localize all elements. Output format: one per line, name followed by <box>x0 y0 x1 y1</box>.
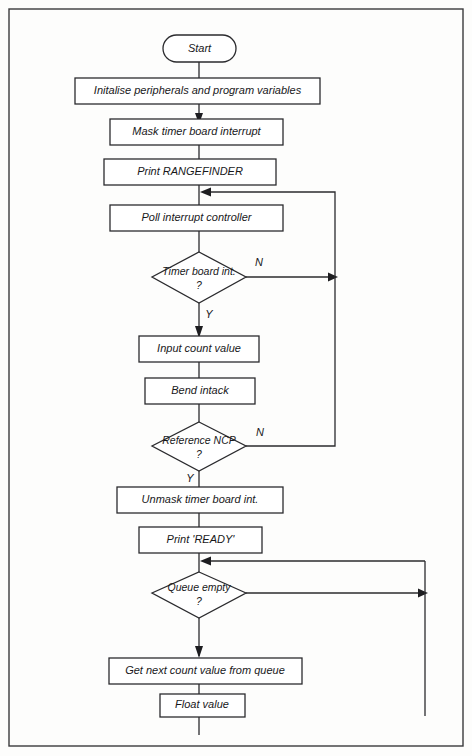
node-print-ready[interactable]: Print 'READY' <box>139 527 262 553</box>
get-next-label: Get next count value from queue <box>125 664 285 676</box>
timer-decision-shape <box>152 252 246 303</box>
float-value-label: Float value <box>175 698 229 710</box>
arrow-loop-into-poll <box>200 188 211 197</box>
flowchart-figure: Start Initalise peripherals and program … <box>0 0 472 756</box>
bend-intack-label: Bend intack <box>171 384 229 396</box>
input-count-label: Input count value <box>157 342 241 354</box>
unmask-label: Unmask timer board int. <box>142 493 259 505</box>
arrow-queue-exit <box>418 589 428 598</box>
node-float-value[interactable]: Float value <box>160 694 245 717</box>
node-start[interactable]: Start <box>163 35 236 62</box>
node-mask[interactable]: Mask timer board interrupt <box>110 119 283 145</box>
node-print-rangefinder[interactable]: Print RANGEFINDER <box>104 159 276 185</box>
node-queue-empty[interactable]: Queue empty ? <box>152 572 246 618</box>
node-unmask[interactable]: Unmask timer board int. <box>117 487 283 513</box>
poll-label: Poll interrupt controller <box>141 211 252 223</box>
arrow-outer-return <box>200 557 211 566</box>
arrow-timer-no <box>328 273 338 282</box>
node-reference-ncp[interactable]: Reference NCP ? <box>152 422 246 471</box>
timer-yes-branch-label: Y <box>205 308 213 320</box>
reference-decision-question: ? <box>196 448 202 460</box>
timer-no-branch-label: N <box>255 256 263 268</box>
flowchart-canvas: Start Initalise peripherals and program … <box>0 0 472 756</box>
reference-decision-label: Reference NCP <box>162 434 236 446</box>
reference-decision-shape <box>152 422 246 471</box>
print-ready-label: Print 'READY' <box>167 533 236 545</box>
node-poll[interactable]: Poll interrupt controller <box>110 205 283 231</box>
queue-decision-question: ? <box>196 595 202 607</box>
start-label: Start <box>188 42 212 54</box>
arrow-queue-down <box>195 646 203 658</box>
queue-decision-label: Queue empty <box>167 581 231 593</box>
init-label: Initalise peripherals and program variab… <box>94 84 302 96</box>
mask-label: Mask timer board interrupt <box>132 125 261 137</box>
reference-no-branch-label: N <box>256 426 264 438</box>
timer-decision-question: ? <box>196 279 202 291</box>
timer-decision-label: Timer board int. <box>162 265 235 277</box>
node-init[interactable]: Initalise peripherals and program variab… <box>75 78 320 104</box>
print-rangefinder-label: Print RANGEFINDER <box>137 165 243 177</box>
node-input-count[interactable]: Input count value <box>139 336 259 362</box>
node-timer-board-int[interactable]: Timer board int. ? <box>152 252 246 303</box>
reference-yes-branch-label: Y <box>186 472 194 484</box>
node-get-next[interactable]: Get next count value from queue <box>109 658 302 684</box>
node-bend-intack[interactable]: Bend intack <box>145 378 255 404</box>
